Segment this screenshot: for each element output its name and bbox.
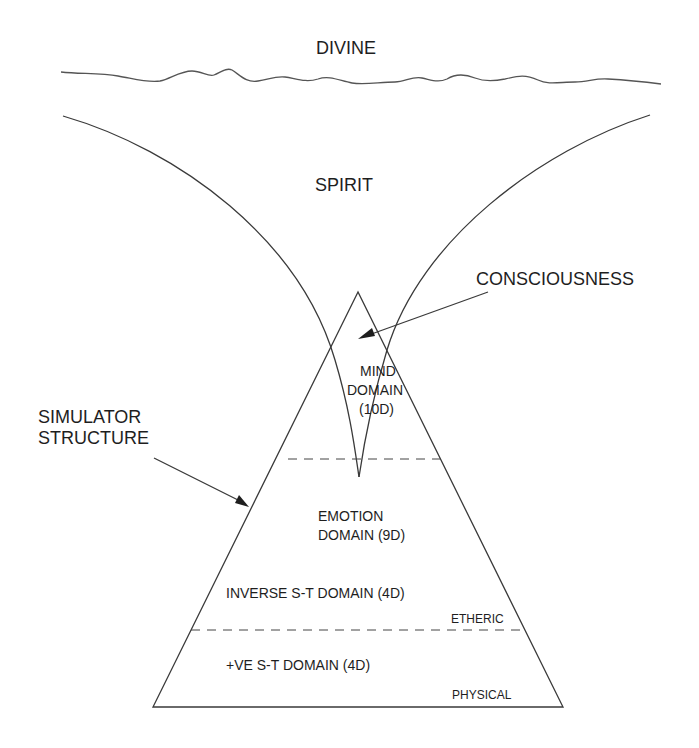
simulator-label-line1: SIMULATOR	[38, 407, 149, 428]
mind-line3: (10D)	[350, 400, 403, 419]
simulator-arrowhead-icon	[235, 495, 249, 507]
physical-label: PHYSICAL	[452, 689, 511, 703]
mind-line2: DOMAIN	[347, 381, 403, 400]
mind-line1: MIND	[350, 362, 403, 381]
divine-label: DIVINE	[316, 38, 376, 59]
positive-st-domain-label: +VE S-T DOMAIN (4D)	[226, 657, 370, 673]
consciousness-label: CONSCIOUSNESS	[476, 269, 634, 290]
spirit-label: SPIRIT	[315, 175, 373, 196]
inverse-st-domain-label: INVERSE S-T DOMAIN (4D)	[226, 585, 405, 601]
emotion-domain-label: EMOTION DOMAIN (9D)	[318, 507, 405, 545]
simulator-arrow-shaft	[154, 458, 242, 502]
emotion-line2: DOMAIN (9D)	[318, 526, 405, 545]
consciousness-arrowhead-icon	[358, 328, 375, 339]
etheric-label: ETHERIC	[451, 613, 504, 627]
consciousness-arrow-shaft	[366, 292, 488, 336]
emotion-line1: EMOTION	[318, 507, 405, 526]
simulator-structure-label: SIMULATOR STRUCTURE	[38, 407, 149, 448]
divine-boundary-wave	[61, 69, 661, 84]
simulator-triangle	[153, 292, 563, 707]
mind-domain-block: MIND DOMAIN (10D)	[350, 362, 403, 419]
spirit-funnel-right-curve	[359, 115, 650, 477]
simulator-label-line2: STRUCTURE	[38, 428, 149, 449]
